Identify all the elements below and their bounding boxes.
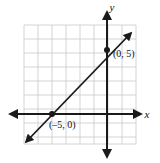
point-marker-x-intercept bbox=[49, 111, 55, 117]
x-axis-label: x bbox=[144, 108, 150, 120]
point-label-x-intercept: (–5, 0) bbox=[49, 119, 76, 131]
y-axis-label: y bbox=[109, 1, 115, 13]
point-label-y-intercept: (0, 5) bbox=[113, 48, 135, 60]
coordinate-plane-figure: y x (0, 5) (–5, 0) bbox=[0, 0, 160, 163]
point-marker-y-intercept bbox=[104, 47, 110, 53]
